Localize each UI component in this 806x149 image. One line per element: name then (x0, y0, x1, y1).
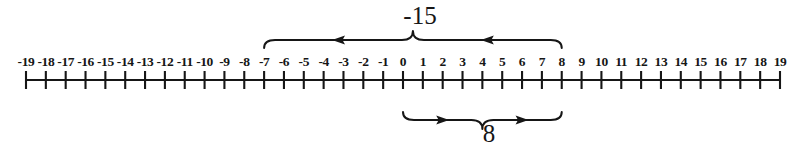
tick-label: 14 (674, 54, 687, 69)
tick-label: -1 (378, 54, 389, 69)
tick-label: 13 (655, 54, 668, 69)
tick-label: 1 (420, 54, 427, 69)
tick-label: -18 (37, 54, 54, 69)
tick-label: 11 (615, 54, 628, 69)
tick-label: -4 (318, 54, 329, 69)
tick-label: 2 (440, 54, 447, 69)
tick-label: 6 (519, 54, 526, 69)
tick-label: 12 (635, 54, 648, 69)
tick-label: 15 (694, 54, 707, 69)
tick-label: 3 (459, 54, 466, 69)
tick-label: -5 (299, 54, 310, 69)
top-brace (264, 31, 562, 48)
tick-label: 8 (559, 54, 566, 69)
bottom-brace-label: 8 (483, 120, 496, 147)
tick-label: -3 (338, 54, 349, 69)
tick-label: -11 (177, 54, 194, 69)
tick-label: -12 (156, 54, 173, 69)
tick-label: 19 (774, 54, 787, 69)
tick-label: -9 (219, 54, 230, 69)
tick-label: 16 (714, 54, 727, 69)
tick-label: -6 (279, 54, 290, 69)
tick-label: 10 (595, 54, 608, 69)
tick-label: 17 (734, 54, 747, 69)
tick-label: 0 (400, 54, 407, 69)
top-brace-label: -15 (403, 2, 436, 29)
tick-label: 18 (754, 54, 767, 69)
tick-label: -19 (18, 54, 35, 69)
tick-label: -8 (239, 54, 250, 69)
diagram-canvas: -19-18-17-16-15-14-13-12-11-10-9-8-7-6-5… (0, 0, 806, 149)
tick-label: 9 (578, 54, 585, 69)
tick-label: -10 (196, 54, 213, 69)
tick-label: -15 (97, 54, 114, 69)
tick-label: -16 (77, 54, 94, 69)
tick-label: 4 (479, 54, 486, 69)
tick-label: -14 (117, 54, 134, 69)
tick-label: -7 (259, 54, 270, 69)
number-line-diagram: -19-18-17-16-15-14-13-12-11-10-9-8-7-6-5… (0, 0, 806, 149)
tick-label: 5 (499, 54, 506, 69)
tick-label: -17 (57, 54, 74, 69)
tick-label: -13 (137, 54, 154, 69)
tick-label-group: -19-18-17-16-15-14-13-12-11-10-9-8-7-6-5… (18, 54, 787, 69)
tick-label: -2 (358, 54, 369, 69)
tick-label: 7 (539, 54, 546, 69)
